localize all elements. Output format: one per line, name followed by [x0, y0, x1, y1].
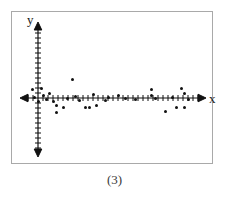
- scatter-point: [107, 96, 110, 99]
- scatter-point: [74, 95, 77, 98]
- scatter-point: [37, 100, 40, 103]
- scatter-point: [62, 106, 65, 109]
- scatter-point: [66, 97, 69, 100]
- scatter-point: [33, 96, 36, 99]
- scatter-point: [78, 99, 81, 102]
- scatter-point: [150, 94, 153, 97]
- figure-caption: (3): [0, 172, 229, 188]
- scatter-point: [183, 92, 186, 95]
- scatter-point: [40, 87, 43, 90]
- scatter-point: [84, 106, 87, 109]
- scatter-point: [164, 110, 167, 113]
- scatter-point: [134, 98, 137, 101]
- scatter-point: [175, 106, 178, 109]
- scatter-point: [71, 78, 74, 81]
- scatter-point: [180, 87, 183, 90]
- scatter-point: [42, 94, 45, 97]
- scatter-point: [55, 111, 58, 114]
- scatter-point: [124, 97, 127, 100]
- scatter-point: [31, 88, 34, 91]
- scatter-point: [95, 104, 98, 107]
- scatter-point: [52, 100, 55, 103]
- scatter-point: [92, 93, 95, 96]
- scatter-point: [117, 94, 120, 97]
- scatter-point: [48, 92, 51, 95]
- y-axis-label: y: [27, 13, 34, 26]
- scatter-point: [45, 98, 48, 101]
- scatter-point: [104, 99, 107, 102]
- scatter-point: [187, 98, 190, 101]
- scatter-plot-figure: y x (3): [0, 0, 229, 197]
- scatter-point: [154, 97, 157, 100]
- scatter-point: [88, 106, 91, 109]
- scatter-point: [55, 104, 58, 107]
- scatter-point: [150, 88, 153, 91]
- scatter-point: [183, 106, 186, 109]
- scatter-point: [171, 96, 174, 99]
- x-axis-label: x: [209, 92, 216, 105]
